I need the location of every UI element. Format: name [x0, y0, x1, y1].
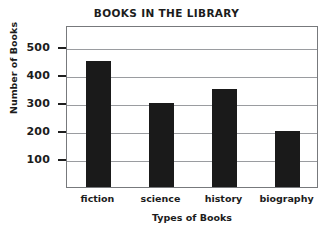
y-axis-tick-label: 100 — [14, 153, 50, 166]
x-axis-label-science: science — [129, 193, 192, 204]
y-axis-tick-label: 500 — [14, 41, 50, 54]
chart-screenshot: BOOKS IN THE LIBRARY Number of Books 100… — [0, 0, 333, 238]
bar-biography — [275, 131, 300, 187]
y-axis-tick-label: 200 — [14, 125, 50, 138]
x-axis-label-history: history — [192, 193, 255, 204]
x-axis-title: Types of Books — [66, 212, 318, 223]
x-axis-label-fiction: fiction — [66, 193, 129, 204]
plot-area — [66, 26, 318, 188]
gridline — [67, 49, 317, 50]
y-axis-tick-label: 300 — [14, 97, 50, 110]
y-axis-tick-label: 400 — [14, 69, 50, 82]
chart-title: BOOKS IN THE LIBRARY — [0, 7, 333, 19]
y-axis-title-container: Number of Books — [8, 8, 24, 128]
bar-fiction — [86, 61, 111, 187]
x-axis-label-biography: biography — [255, 193, 318, 204]
bar-science — [149, 103, 174, 187]
bar-history — [212, 89, 237, 187]
y-axis-title: Number of Books — [8, 8, 19, 128]
